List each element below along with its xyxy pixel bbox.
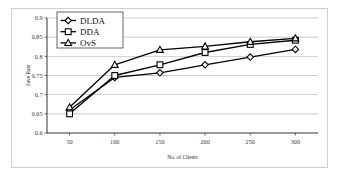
ytick-label-0.85: 0.85 (32, 33, 43, 40)
legend-label-dlda: DLDA (80, 16, 105, 26)
ytick-label-0.8: 0.8 (35, 53, 43, 60)
x-axis-title: No. of Clients (167, 154, 197, 160)
xtick-label-50: 50 (66, 138, 72, 145)
xtick-label-150: 150 (155, 138, 164, 145)
xtick-label-250: 250 (246, 138, 255, 145)
xtick-label-100: 100 (110, 138, 119, 145)
legend-square-marker-icon (65, 29, 71, 35)
xtick-label-200: 200 (200, 138, 209, 145)
ytick-label-0.9: 0.9 (35, 14, 43, 21)
ytick-label-0.65: 0.65 (32, 110, 43, 117)
legend-label-ovs: OvS (80, 38, 96, 48)
chart-canvas: 0.60.650.70.750.80.850.95010015020025030… (0, 0, 343, 183)
datapoint-dda-50 (67, 111, 73, 117)
datapoint-dda-150 (157, 62, 163, 68)
ytick-label-0.7: 0.7 (35, 91, 43, 98)
datapoint-dda-100 (112, 73, 118, 79)
legend-label-dda: DDA (80, 27, 100, 37)
xtick-label-300: 300 (291, 138, 300, 145)
y-axis-title: Save Rate (25, 64, 31, 86)
ytick-label-0.75: 0.75 (32, 72, 43, 79)
ytick-label-0.6: 0.6 (35, 129, 43, 136)
datapoint-dda-200 (202, 50, 208, 56)
line-chart: 0.60.650.70.750.80.850.95010015020025030… (0, 0, 343, 183)
